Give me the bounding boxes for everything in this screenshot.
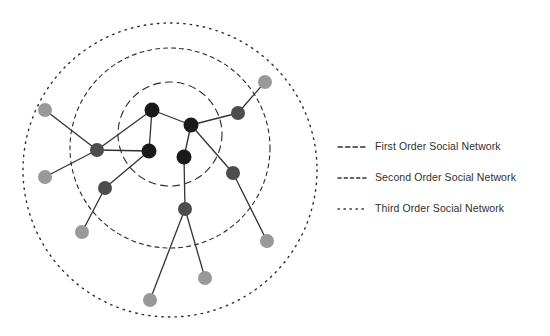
network-node-c1 — [145, 103, 160, 118]
network-edge — [82, 188, 105, 232]
network-node-o7 — [143, 293, 157, 307]
legend-third: Third Order Social Network — [338, 194, 543, 222]
legend: First Order Social NetworkSecond Order S… — [338, 132, 543, 225]
network-node-o1 — [38, 103, 52, 117]
network-edge — [184, 157, 185, 209]
network-node-m2 — [98, 181, 112, 195]
ring-group — [23, 23, 317, 317]
network-edge — [97, 150, 149, 151]
network-node-m3 — [231, 106, 245, 120]
network-node-m1 — [90, 143, 104, 157]
legend-third-label: Third Order Social Network — [375, 203, 504, 214]
legend-third-line-icon — [338, 207, 366, 209]
network-node-o5 — [260, 234, 274, 248]
network-node-o2 — [38, 170, 52, 184]
ring-first — [118, 82, 222, 186]
network-node-m4 — [226, 166, 240, 180]
network-node-o4 — [258, 75, 272, 89]
legend-second: Second Order Social Network — [338, 163, 543, 191]
network-node-c2 — [184, 118, 199, 133]
network-edge — [97, 110, 152, 150]
network-node-o6 — [198, 271, 212, 285]
diagram-stage: First Order Social NetworkSecond Order S… — [0, 0, 550, 336]
network-edge — [150, 209, 185, 300]
network-edge — [191, 125, 233, 173]
network-edge — [185, 209, 205, 278]
network-node-c4 — [177, 150, 192, 165]
legend-second-line-icon — [338, 176, 366, 178]
ring-third — [23, 23, 317, 317]
network-edge — [45, 150, 97, 177]
legend-first-label: First Order Social Network — [375, 141, 501, 152]
network-node-o3 — [75, 225, 89, 239]
legend-first: First Order Social Network — [338, 132, 543, 160]
network-edge — [233, 173, 267, 241]
network-edge — [45, 110, 97, 150]
network-node-m5 — [178, 202, 192, 216]
network-node-c3 — [142, 144, 157, 159]
network-edge — [105, 151, 149, 188]
node-group — [38, 75, 274, 307]
legend-first-line-icon — [338, 145, 366, 147]
legend-second-label: Second Order Social Network — [375, 172, 516, 183]
